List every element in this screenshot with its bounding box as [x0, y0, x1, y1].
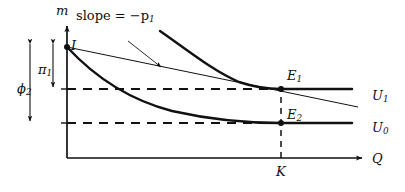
u0-subscript: 0 [383, 126, 389, 136]
e2-subscript: 2 [297, 113, 303, 123]
slope-annotation-subscript: 1 [149, 14, 155, 24]
point-label-E1: E1 [287, 69, 302, 84]
u0-symbol: U [372, 120, 383, 135]
point-label-I: I [71, 39, 76, 52]
curve-label-u1: U1 [372, 89, 389, 104]
pi1-label: π1 [38, 63, 52, 78]
point-label-E2: E2 [287, 108, 302, 123]
y-axis-label: m [56, 4, 68, 17]
phi2-subscript: 2 [26, 87, 32, 97]
point-E1 [278, 86, 284, 92]
u1-curve [160, 31, 352, 89]
e1-subscript: 1 [297, 74, 303, 84]
curve-label-u0: U0 [372, 121, 389, 136]
u1-symbol: U [372, 88, 383, 103]
point-E2 [278, 120, 284, 126]
budget-line [67, 47, 358, 107]
u0-curve [67, 47, 352, 123]
e2-symbol: E [287, 107, 297, 122]
slope-annotation-label: slope = −p1 [76, 9, 155, 24]
x-tick-label-k: K [276, 165, 286, 178]
pi1-subscript: 1 [47, 68, 53, 78]
point-I [64, 44, 70, 50]
pi1-symbol: π [38, 62, 47, 77]
x-axis-label: Q [372, 152, 383, 165]
phi2-symbol: ϕ [17, 81, 26, 96]
slope-annotation-text: slope = −p [76, 8, 149, 23]
indifference-curve-figure: m slope = −p1 I π1 ϕ2 E1 E2 U1 U0 Q K [0, 0, 405, 192]
u1-subscript: 1 [383, 94, 389, 104]
e1-symbol: E [287, 68, 297, 83]
phi2-label: ϕ2 [17, 82, 32, 97]
figure-canvas [0, 0, 405, 192]
